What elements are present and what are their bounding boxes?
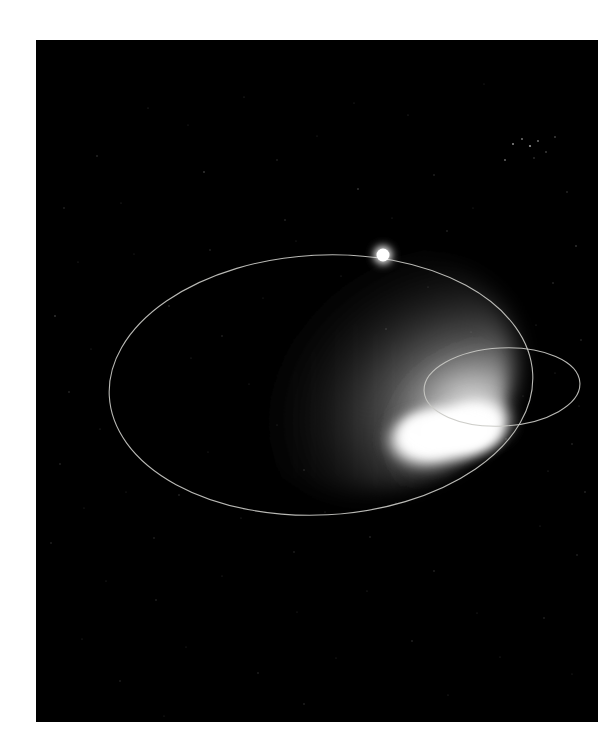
star-point [316,135,317,136]
star-point [119,680,120,681]
star-point [547,470,548,471]
star-point [571,443,572,444]
star-point [243,96,244,97]
bright-star-core [377,249,390,262]
star-point [391,217,392,218]
star-point [209,249,210,250]
star-point [395,502,396,503]
star-point [499,656,500,657]
star-point [433,570,434,571]
star-point [257,672,258,673]
star-point [512,143,514,145]
star-point [296,611,297,612]
star-point [83,507,84,508]
star-point [190,357,191,358]
star-point [472,207,473,208]
star-point [521,138,523,140]
star-point [529,145,531,147]
star-point [353,102,354,103]
star-point [366,590,367,591]
star-point [447,694,448,695]
star-point [77,261,78,262]
star-point [155,599,156,600]
star-point [276,159,277,160]
plate-canvas [36,40,598,722]
star-point [185,646,186,647]
star-point [369,536,370,537]
star-point [178,494,179,495]
star-point [554,372,555,373]
star-point [96,155,97,156]
bright-star [367,239,399,271]
star-point [578,405,579,406]
star-point [168,305,169,306]
star-point [554,136,556,138]
astronomical-plate [36,40,598,722]
star-point [580,339,581,340]
star-point [120,202,121,203]
star-point [63,207,64,208]
star-point [575,245,577,247]
star-point [99,428,100,429]
star-point [54,315,56,317]
star-point [535,324,536,325]
star-point [545,151,547,153]
star-point [324,511,325,512]
star-point [537,140,539,142]
star-point [147,107,148,108]
star-point [411,640,412,641]
star-point [433,174,434,175]
star-point [504,159,506,161]
star-point [566,191,567,192]
star-point [576,554,577,555]
star-point [584,491,585,492]
star-point [543,617,544,618]
star-point [335,657,336,658]
star-point [221,575,222,576]
star-point [207,451,208,452]
star-point [105,580,106,581]
star-point [187,124,188,125]
star-point [522,395,523,396]
star-point [50,542,51,543]
star-point [533,157,534,158]
star-point [293,551,294,552]
star-point [68,391,69,392]
star-point [357,188,359,190]
star-point [203,171,205,173]
star-point [133,253,134,254]
star-point [483,83,484,84]
star-point [552,282,553,283]
star-point [571,673,572,674]
star-point [221,335,222,336]
star-point [539,525,540,526]
star-point [240,517,241,518]
star-point [59,463,60,464]
star-point [295,240,296,241]
page-root: Comet with orbital ellipses over star fi… [0,0,607,755]
star-point [153,537,154,538]
star-point [476,612,477,613]
star-point [125,491,126,492]
star-point [407,114,408,115]
star-point [303,703,304,704]
star-point [163,715,164,716]
star-point [90,348,91,349]
star-point [81,638,82,639]
star-point [284,219,285,220]
star-point [446,230,447,231]
